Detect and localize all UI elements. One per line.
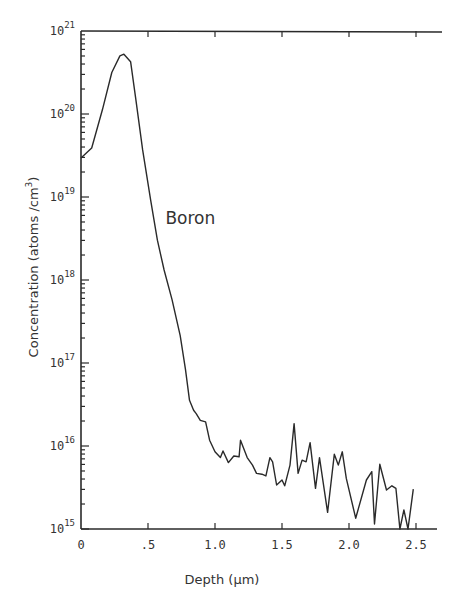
x-axis-title: Depth (µm) bbox=[185, 572, 260, 587]
tick-labels: 0.51.01.52.02.51015101610171018101910201… bbox=[50, 20, 427, 552]
y-tick-label: 1019 bbox=[50, 186, 75, 204]
axes bbox=[81, 31, 442, 529]
y-tick-label: 1017 bbox=[50, 352, 75, 370]
y-axis-title: Concentration (atoms /cm3) bbox=[24, 177, 41, 358]
depth-profile-chart: 0.51.01.52.02.51015101610171018101910201… bbox=[0, 0, 455, 606]
x-tick-label: 1.5 bbox=[271, 538, 293, 552]
y-tick-label: 1020 bbox=[50, 103, 75, 121]
y-axis-title-main: Concentration (atoms /cm bbox=[26, 187, 41, 357]
x-tick-label: .5 bbox=[141, 538, 155, 552]
y-tick-label: 1018 bbox=[50, 269, 75, 287]
y-tick-label: 1016 bbox=[50, 435, 75, 453]
y-tick-label: 1021 bbox=[50, 20, 75, 38]
y-tick-label: 1015 bbox=[50, 518, 75, 536]
boron-profile-line bbox=[81, 54, 413, 529]
y-axis-title-close: ) bbox=[26, 177, 41, 182]
boron-annotation: Boron bbox=[165, 208, 215, 228]
top-axis-line bbox=[81, 31, 442, 32]
ticks bbox=[81, 31, 416, 529]
x-tick-label: 1.0 bbox=[204, 538, 226, 552]
x-tick-label: 2.0 bbox=[338, 538, 360, 552]
x-tick-label: 0 bbox=[77, 538, 84, 552]
x-tick-label: 2.5 bbox=[405, 538, 427, 552]
